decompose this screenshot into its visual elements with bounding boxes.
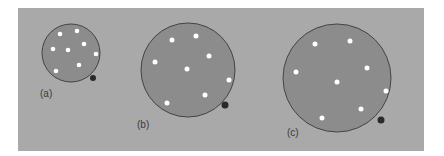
dot <box>320 116 325 121</box>
dot <box>170 38 175 43</box>
dot <box>51 47 56 52</box>
dot <box>335 80 340 85</box>
dot <box>77 63 82 68</box>
balloon-a-body <box>42 24 100 82</box>
balloon-c: (c) <box>283 24 391 138</box>
dot <box>165 101 170 106</box>
dot <box>203 93 208 98</box>
balloon-c-body <box>283 24 391 132</box>
dot <box>153 60 158 65</box>
dot <box>365 66 370 71</box>
dot <box>313 42 318 47</box>
dot <box>58 32 63 37</box>
dot <box>227 78 232 83</box>
dot <box>66 48 71 53</box>
balloon-a-label: (a) <box>40 88 52 99</box>
dot <box>348 39 353 44</box>
balloon-a-knot-icon <box>90 75 96 81</box>
dot <box>185 67 190 72</box>
dot <box>94 52 99 57</box>
dot <box>207 54 212 59</box>
dot <box>82 42 87 47</box>
dot <box>194 34 199 39</box>
dot <box>54 69 59 74</box>
balloon-diagram: (a) (b) (c) <box>0 0 444 156</box>
balloon-b-label: (b) <box>137 119 149 130</box>
balloon-b-knot-icon <box>222 102 229 109</box>
dot <box>75 29 80 34</box>
balloon-c-knot-icon <box>378 117 385 124</box>
balloon-a: (a) <box>40 24 100 99</box>
dot <box>384 89 389 94</box>
balloon-c-label: (c) <box>287 127 299 138</box>
dot <box>294 70 299 75</box>
balloon-b: (b) <box>137 23 235 130</box>
dot <box>359 107 364 112</box>
